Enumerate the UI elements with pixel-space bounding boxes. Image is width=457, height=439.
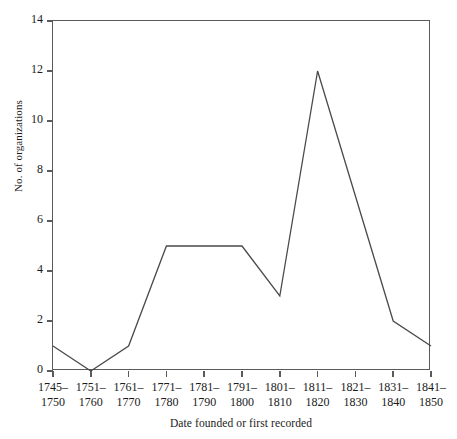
y-tick-mark [47,270,53,272]
y-tick-label: 6 [37,212,43,227]
plot-area: 02468101214 1745– 17501751– 17601761– 17… [53,21,429,369]
x-tick-mark [52,371,54,377]
x-tick-mark [241,371,243,377]
data-line-no-of-organizations [53,71,431,371]
x-tick-mark [355,371,357,377]
y-tick-label: 10 [31,112,43,127]
y-tick-label: 0 [37,362,43,377]
x-axis-title: Date founded or first recorded [52,417,430,429]
x-tick-mark [392,371,394,377]
y-tick-mark [47,220,53,222]
x-tick-label: 1841– 1850 [399,380,457,410]
y-tick-mark [47,20,53,22]
x-tick-mark [430,371,432,377]
y-tick-label: 8 [37,162,43,177]
y-tick-label: 4 [37,262,43,277]
y-tick-mark [47,170,53,172]
x-tick-mark [279,371,281,377]
x-tick-mark [166,371,168,377]
y-tick-mark [47,320,53,322]
y-tick-label: 14 [31,12,43,27]
y-tick-label: 12 [31,62,43,77]
chart-figure: No. of organizations 02468101214 1745– 1… [0,0,457,439]
y-axis-title: No. of organizations [12,66,24,226]
plot-frame: 02468101214 1745– 17501751– 17601761– 17… [52,20,430,370]
x-tick-mark [203,371,205,377]
x-tick-mark [128,371,130,377]
y-tick-label: 2 [37,312,43,327]
y-tick-mark [47,120,53,122]
line-series-svg [53,21,431,371]
y-tick-mark [47,70,53,72]
x-tick-mark [317,371,319,377]
x-tick-mark [90,371,92,377]
